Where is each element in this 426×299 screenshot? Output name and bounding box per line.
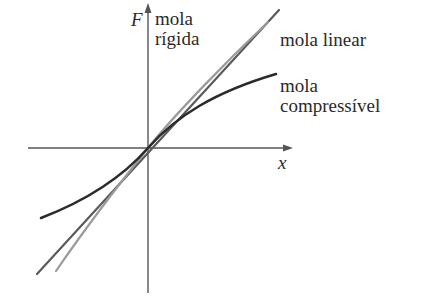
curve-linear-spring — [37, 10, 279, 274]
label-compressible-line2: compressível — [280, 96, 380, 115]
curve-rigid-spring — [56, 22, 268, 271]
y-axis-arrow-icon — [145, 3, 152, 13]
label-rigid-line2: rígida — [155, 29, 199, 48]
curve-compressible-spring — [41, 74, 276, 218]
label-linear: mola linear — [280, 30, 366, 49]
label-compressible-line1: mola — [280, 76, 318, 95]
x-axis-arrow-icon — [283, 145, 293, 152]
y-axis-label: F — [131, 10, 143, 29]
x-axis-label: x — [278, 153, 286, 172]
label-rigid-line1: mola — [155, 9, 193, 28]
